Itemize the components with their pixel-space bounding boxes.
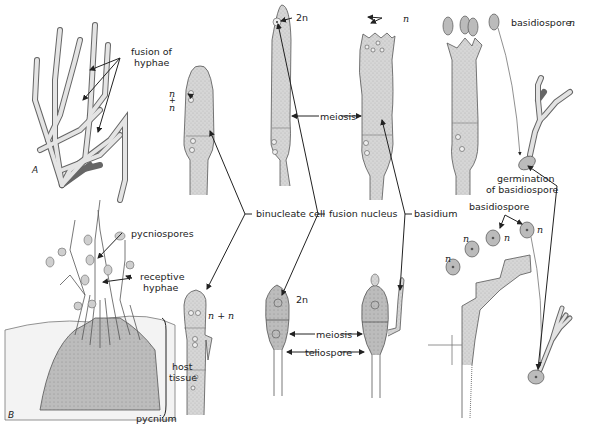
teliospore-2n — [266, 285, 289, 396]
label-fusion-of-hyphae-line2: hyphae — [134, 57, 169, 68]
life-cycle-diagram: A B fusion of hyphae pycniospores recept… — [0, 0, 591, 435]
label-host-tissue-line1: host — [172, 361, 193, 372]
ploidy-n-spore-2: n — [463, 233, 469, 244]
label-pycniospores: pycniospores — [131, 228, 194, 239]
ploidy-n-basidiospore-top: n — [569, 17, 575, 28]
hyphae-network — [35, 25, 125, 200]
panel-label-a: A — [32, 165, 38, 175]
binucleate-cell-bottom — [184, 290, 212, 415]
ploidy-n-spore-3: n — [504, 232, 510, 243]
basidium-top — [359, 33, 395, 200]
panel-label-b: B — [8, 410, 14, 420]
label-germination-line2: of basidiospore — [486, 184, 558, 195]
basidium-with-spores-top — [443, 14, 499, 195]
label-germination-line1: germination — [497, 173, 555, 184]
ploidy-n-spore-4: n — [537, 224, 543, 235]
label-fusion-of-hyphae-line1: fusion of — [131, 46, 172, 57]
ploidy-n-plus-n-bottom: n + n — [208, 310, 234, 321]
fusion-nucleus-hypha-top — [271, 5, 291, 186]
binucleate-hypha-top — [184, 66, 214, 195]
label-receptive-hyphae-line2: hyphae — [143, 282, 178, 293]
label-basidiospore-top: basidiospore — [511, 17, 571, 28]
ploidy-n-basidium-top: n — [403, 13, 409, 24]
ploidy-2n-bottom: 2n — [296, 294, 308, 305]
germinating-basidiospore-top — [498, 28, 570, 173]
ploidy-2n-top: 2n — [296, 12, 308, 23]
label-basidiospore-mid: basidiospore — [469, 201, 529, 212]
label-pycnium: pycnium — [136, 413, 177, 424]
label-basidium: basidium — [414, 208, 457, 219]
ploidy-n-top-second: n — [169, 102, 175, 113]
basidium-with-basidiospores — [428, 222, 534, 418]
label-host-tissue-line2: tissue — [169, 372, 197, 383]
label-meiosis-top: meiosis — [320, 111, 356, 122]
label-binucleate-cell: binucleate cell — [256, 208, 325, 219]
label-meiosis-bottom: meiosis — [316, 329, 352, 340]
label-receptive-hyphae-line1: receptive — [140, 271, 184, 282]
ploidy-n-spore-1: n — [445, 253, 451, 264]
label-teliospore: teliospore — [305, 347, 352, 358]
germinating-teliospore — [362, 274, 404, 398]
label-fusion-nucleus: fusion nucleus — [329, 208, 398, 219]
